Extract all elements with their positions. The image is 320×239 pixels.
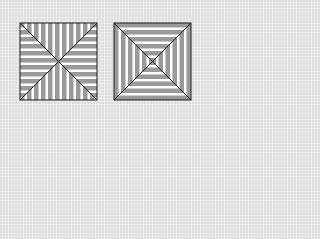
pattern-diagram bbox=[0, 0, 215, 123]
right-square bbox=[114, 23, 191, 100]
figure-container bbox=[0, 0, 215, 123]
left-square bbox=[20, 23, 97, 100]
